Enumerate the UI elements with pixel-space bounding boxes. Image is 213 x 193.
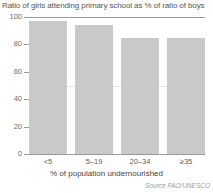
- y-tick-label: 80: [14, 39, 22, 48]
- x-tick-label-lt5: <5: [29, 157, 67, 168]
- plot-area: [29, 17, 205, 155]
- chart-title: Ratio of girls attending primary school …: [2, 0, 213, 11]
- bar-gte35[interactable]: [167, 38, 205, 154]
- y-tick-label: 0: [18, 149, 22, 158]
- y-tick-label: 100: [9, 12, 22, 21]
- x-axis: <5 5–19 20–34 ≥35: [29, 157, 205, 168]
- bar-series: [29, 17, 205, 154]
- y-tick-label: 60: [14, 67, 22, 76]
- x-axis-title: % of population undernourished: [0, 168, 213, 179]
- y-axis: 100 80 60 40 20 0: [0, 17, 29, 155]
- y-tick-label: 20: [14, 122, 22, 131]
- chart-figure: Ratio of girls attending primary school …: [0, 0, 213, 193]
- bar-20-34[interactable]: [121, 38, 159, 154]
- x-tick-label-20-34: 20–34: [121, 157, 159, 168]
- x-tick-label-5-19: 5–19: [75, 157, 113, 168]
- y-tick-label: 40: [14, 94, 22, 103]
- bar-5-19[interactable]: [75, 25, 113, 154]
- gridline-baseline: [29, 154, 205, 155]
- source-note: Source FAO/UNESCO: [145, 182, 210, 190]
- x-tick-label-gte35: ≥35: [167, 157, 205, 168]
- bar-lt5[interactable]: [29, 21, 67, 154]
